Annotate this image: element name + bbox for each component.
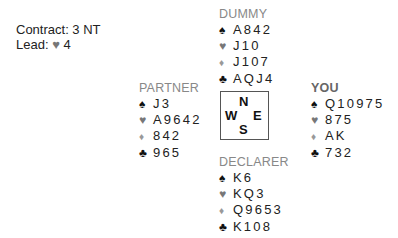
heart-icon: ♥: [219, 38, 233, 54]
spade-icon: ♠: [219, 22, 233, 38]
hand-label: YOU: [311, 81, 384, 96]
heart-icon: ♥: [219, 186, 233, 202]
cards-diamonds: Q9653: [233, 202, 283, 217]
suit-row-spades: ♠J3: [139, 96, 202, 112]
cards-clubs: 732: [325, 145, 353, 160]
cards-spades: J3: [153, 96, 171, 111]
suit-row-diamonds: ♦AK: [311, 128, 384, 145]
suit-row-clubs: ♣AQJ4: [219, 71, 274, 87]
suit-row-diamonds: ♦Q9653: [219, 202, 289, 219]
cards-diamonds: J107: [233, 54, 270, 69]
club-icon: ♣: [219, 71, 233, 87]
suit-row-diamonds: ♦J107: [219, 54, 274, 71]
compass-south: S: [239, 122, 248, 137]
compass-east: E: [253, 108, 262, 123]
hand-partner: PARTNER ♠J3 ♥A9642 ♦842 ♣965: [139, 81, 202, 161]
cards-hearts: KQ3: [233, 186, 266, 201]
hand-label: DUMMY: [219, 7, 274, 22]
hand-dummy: DUMMY ♠A842 ♥J10 ♦J107 ♣AQJ4: [219, 7, 274, 87]
cards-diamonds: 842: [153, 128, 181, 143]
cards-diamonds: AK: [325, 128, 347, 143]
cards-clubs: 965: [153, 145, 181, 160]
suit-row-hearts: ♥J10: [219, 38, 274, 54]
club-icon: ♣: [219, 219, 233, 235]
cards-hearts: 875: [325, 112, 353, 127]
heart-icon: ♥: [139, 112, 153, 128]
spade-icon: ♠: [219, 170, 233, 186]
heart-icon: ♥: [52, 37, 60, 52]
cards-clubs: AQJ4: [233, 71, 274, 86]
diamond-icon: ♦: [219, 55, 233, 71]
lead-text: Lead: ♥ 4: [16, 37, 101, 52]
suit-row-diamonds: ♦842: [139, 128, 202, 145]
hand-declarer: DECLARER ♠K6 ♥KQ3 ♦Q9653 ♣K108: [219, 155, 289, 235]
hand-label: DECLARER: [219, 155, 289, 170]
hand-label: PARTNER: [139, 81, 202, 96]
compass-box: N W E S: [220, 91, 269, 140]
diamond-icon: ♦: [311, 129, 325, 145]
suit-row-clubs: ♣K108: [219, 219, 289, 235]
cards-spades: K6: [233, 170, 253, 185]
compass-north: N: [239, 94, 248, 109]
suit-row-spades: ♠K6: [219, 170, 289, 186]
cards-spades: Q10975: [325, 96, 384, 111]
suit-row-clubs: ♣965: [139, 145, 202, 161]
suit-row-hearts: ♥875: [311, 112, 384, 128]
cards-hearts: A9642: [153, 112, 202, 127]
suit-row-clubs: ♣732: [311, 145, 384, 161]
suit-row-hearts: ♥A9642: [139, 112, 202, 128]
heart-icon: ♥: [311, 112, 325, 128]
club-icon: ♣: [311, 145, 325, 161]
club-icon: ♣: [139, 145, 153, 161]
contract-text: Contract: 3 NT: [16, 22, 101, 37]
diamond-icon: ♦: [219, 203, 233, 219]
diamond-icon: ♦: [139, 129, 153, 145]
lead-card: 4: [64, 37, 71, 52]
cards-hearts: J10: [233, 38, 261, 53]
hand-you: YOU ♠Q10975 ♥875 ♦AK ♣732: [311, 81, 384, 161]
cards-spades: A842: [233, 22, 272, 37]
lead-prefix: Lead:: [16, 37, 52, 52]
suit-row-hearts: ♥KQ3: [219, 186, 289, 202]
deal-info: Contract: 3 NT Lead: ♥ 4: [16, 22, 101, 52]
suit-row-spades: ♠Q10975: [311, 96, 384, 112]
cards-clubs: K108: [233, 219, 272, 234]
compass-west: W: [225, 108, 237, 123]
spade-icon: ♠: [311, 96, 325, 112]
suit-row-spades: ♠A842: [219, 22, 274, 38]
spade-icon: ♠: [139, 96, 153, 112]
